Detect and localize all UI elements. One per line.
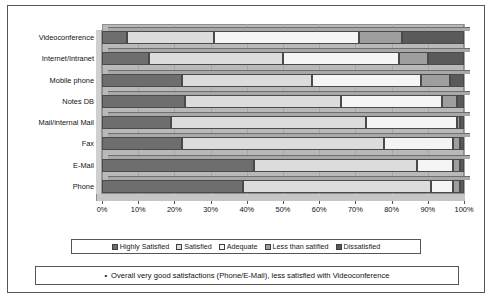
bar-row xyxy=(102,116,464,129)
bar-segment xyxy=(102,52,149,65)
bar-segment xyxy=(402,31,464,44)
bar-segment xyxy=(384,137,453,150)
bar-row xyxy=(102,159,464,172)
bar-segment xyxy=(453,137,460,150)
bar-segment xyxy=(450,74,464,87)
bar-segment xyxy=(102,31,127,44)
axis-tick xyxy=(102,201,103,204)
bar-row xyxy=(102,137,464,150)
caption-text: •Overall very good satisfactions (Phone/… xyxy=(104,271,389,281)
axis-tick-label: 80% xyxy=(378,205,406,214)
bar-segment xyxy=(283,52,399,65)
axis-tick xyxy=(428,201,429,204)
bar-segment xyxy=(312,74,421,87)
bar-segment xyxy=(102,95,185,108)
axis-tick-label: 100% xyxy=(450,205,478,214)
axis-tick xyxy=(319,201,320,204)
caption-box: •Overall very good satisfactions (Phone/… xyxy=(35,266,459,285)
category-axis-labels: VideoconferenceInternet/IntranetMobile p… xyxy=(8,24,94,200)
bar-segment xyxy=(460,116,464,129)
bar-top-face xyxy=(108,70,470,74)
bar-segment xyxy=(171,116,366,129)
bar-segment xyxy=(102,137,182,150)
bar-segment xyxy=(182,74,312,87)
axis-tick-label: 30% xyxy=(197,205,225,214)
axis-tick xyxy=(392,201,393,204)
bar-segment xyxy=(359,31,402,44)
bar-top-face xyxy=(108,48,470,52)
axis-tick xyxy=(138,201,139,204)
category-label: Mobile phone xyxy=(10,76,94,85)
chart-plot-area xyxy=(96,24,464,200)
axis-tick-label: 10% xyxy=(124,205,152,214)
axis-tick xyxy=(464,201,465,204)
bar-row xyxy=(102,74,464,87)
bar-top-face xyxy=(108,91,470,95)
axis-tick xyxy=(174,201,175,204)
bar-segment xyxy=(102,180,243,193)
axis-tick xyxy=(355,201,356,204)
bar-segment xyxy=(182,137,385,150)
bar-segment xyxy=(460,159,464,172)
legend-label: Satisfied xyxy=(184,242,212,251)
category-label: Fax xyxy=(10,139,94,148)
axis-tick-label: 40% xyxy=(233,205,261,214)
bar-segment xyxy=(214,31,359,44)
bar-segment xyxy=(453,180,460,193)
legend-label: Highly Satisfied xyxy=(120,242,170,251)
bar-segment xyxy=(421,74,450,87)
category-label: Phone xyxy=(10,182,94,191)
axis-tick-label: 50% xyxy=(269,205,297,214)
axis-tick xyxy=(211,201,212,204)
bar-segment xyxy=(254,159,417,172)
bar-segment xyxy=(102,116,171,129)
axis-tick xyxy=(283,201,284,204)
bar-segment xyxy=(366,116,457,129)
legend-item[interactable]: Less than satified xyxy=(265,242,329,251)
value-axis: 0%10%20%30%40%50%60%70%80%90%100% xyxy=(96,201,466,217)
category-label: Internet/Intranet xyxy=(10,54,94,63)
bar-segment xyxy=(185,95,341,108)
bar-segment xyxy=(431,180,453,193)
legend-swatch-icon xyxy=(265,244,271,250)
category-label: Videoconference xyxy=(10,33,94,42)
axis-tick-label: 20% xyxy=(160,205,188,214)
bar-segment xyxy=(460,180,464,193)
plot-floor xyxy=(96,194,465,201)
bar-segment xyxy=(102,159,254,172)
bar-segment xyxy=(149,52,283,65)
axis-tick-label: 70% xyxy=(341,205,369,214)
chart-legend: Highly SatisfiedSatisfiedAdequateLess th… xyxy=(71,239,421,254)
slide-frame: VideoconferenceInternet/IntranetMobile p… xyxy=(7,5,485,293)
bar-segment xyxy=(442,95,456,108)
bar-segment xyxy=(453,159,460,172)
axis-tick-label: 60% xyxy=(305,205,333,214)
legend-item[interactable]: Highly Satisfied xyxy=(112,242,170,251)
legend-item[interactable]: Adequate xyxy=(219,242,258,251)
bar-top-face xyxy=(108,155,470,159)
bar-top-face xyxy=(108,112,470,116)
axis-tick-label: 90% xyxy=(414,205,442,214)
legend-item[interactable]: Satisfied xyxy=(176,242,212,251)
legend-label: Dissatisfied xyxy=(344,242,381,251)
category-label: Notes DB xyxy=(10,97,94,106)
legend-label: Adequate xyxy=(227,242,258,251)
category-label: Mail/internal Mail xyxy=(10,118,94,127)
bar-row xyxy=(102,52,464,65)
bar-top-face xyxy=(108,27,470,31)
legend-swatch-icon xyxy=(336,244,342,250)
bar-segment xyxy=(399,52,428,65)
bar-segment xyxy=(341,95,442,108)
bar-top-face xyxy=(108,176,470,180)
legend-item[interactable]: Dissatisfied xyxy=(336,242,381,251)
axis-tick-label: 0% xyxy=(88,205,116,214)
legend-swatch-icon xyxy=(219,244,225,250)
bar-segment xyxy=(127,31,214,44)
bar-row xyxy=(102,31,464,44)
legend-label: Less than satified xyxy=(273,242,329,251)
axis-tick xyxy=(247,201,248,204)
caption-label: Overall very good satisfactions (Phone/E… xyxy=(111,271,389,280)
bar-row xyxy=(102,180,464,193)
bar-segment xyxy=(417,159,453,172)
bar-segment xyxy=(460,137,464,150)
